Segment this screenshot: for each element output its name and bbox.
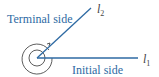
l2-label: l2 — [97, 3, 104, 18]
terminal-side-label: Terminal side — [7, 13, 72, 25]
l1-label: l1 — [143, 53, 150, 68]
angle-diagram: Terminal side Initial side l2 l1 — [0, 0, 159, 77]
initial-side-label: Initial side — [72, 64, 123, 76]
l1-subscript: 1 — [146, 59, 150, 68]
l2-subscript: 2 — [100, 9, 104, 18]
